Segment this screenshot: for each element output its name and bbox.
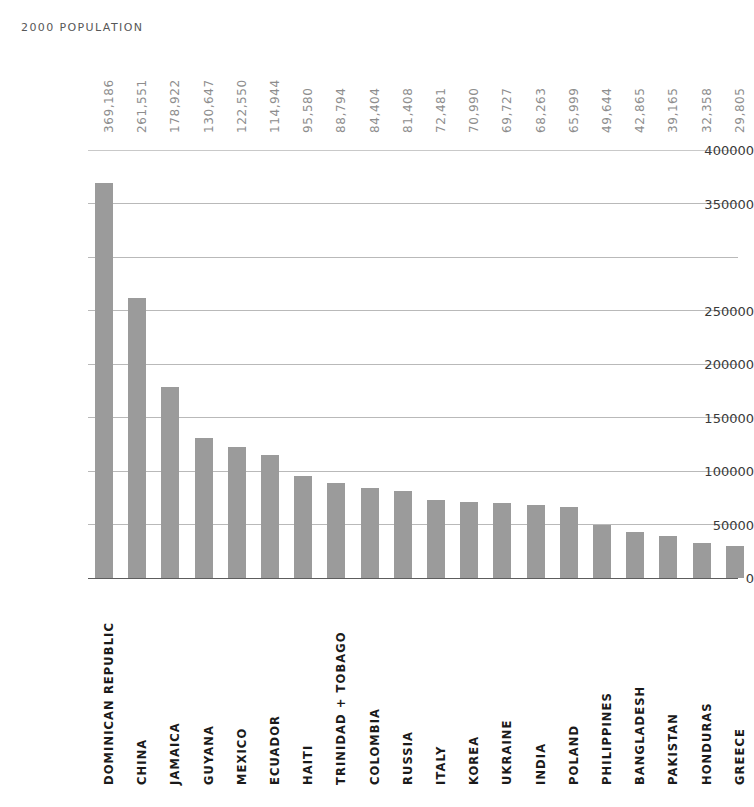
bar (261, 455, 279, 578)
y-axis-tick-label: 100000 (676, 464, 754, 479)
gridline (88, 417, 738, 418)
y-axis-tick-label: 350000 (676, 196, 754, 211)
y-axis-tick-label: 250000 (676, 303, 754, 318)
bar (228, 447, 246, 578)
bar (693, 543, 711, 578)
gridline (88, 257, 738, 258)
bar (195, 438, 213, 578)
bar (460, 502, 478, 578)
bar (659, 536, 677, 578)
bar (294, 476, 312, 578)
bar (593, 525, 611, 578)
bar (327, 483, 345, 578)
gridline (88, 310, 738, 311)
bar (493, 503, 511, 578)
bar (560, 507, 578, 578)
y-axis-tick-label: 50000 (676, 517, 754, 532)
bar (726, 546, 744, 578)
y-axis-tick-label: 200000 (676, 357, 754, 372)
bar-chart: 4000003500002500002000001500001000005000… (0, 0, 754, 807)
gridline (88, 150, 738, 151)
gridline (88, 524, 738, 525)
bar (128, 298, 146, 578)
y-axis-tick-label: 150000 (676, 410, 754, 425)
y-axis-tick-label: 400000 (676, 143, 754, 158)
bar (626, 532, 644, 578)
bar (161, 387, 179, 578)
gridline (88, 471, 738, 472)
bar (427, 500, 445, 578)
bar (527, 505, 545, 578)
bar (394, 491, 412, 578)
bar (361, 488, 379, 578)
gridline (88, 364, 738, 365)
bar (95, 183, 113, 578)
gridline (88, 203, 738, 204)
